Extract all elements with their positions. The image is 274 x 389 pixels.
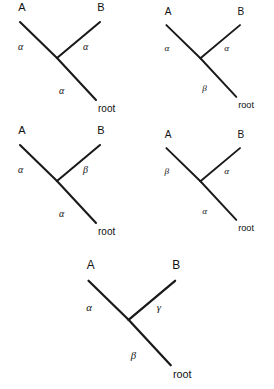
tree-panel-top-left: A B root α α α bbox=[0, 0, 137, 122]
branch-label-root: β bbox=[201, 83, 207, 93]
branch-line-b bbox=[57, 145, 100, 181]
branch-label-b: β bbox=[82, 164, 88, 175]
tip-label-b: B bbox=[238, 6, 245, 17]
branch-label-b: α bbox=[224, 166, 229, 176]
branch-label-b: α bbox=[224, 43, 229, 53]
branch-line-b bbox=[200, 148, 240, 181]
tip-label-b: B bbox=[172, 258, 180, 272]
root-label: root bbox=[98, 226, 115, 237]
root-label: root bbox=[238, 100, 254, 110]
branch-line-b bbox=[57, 22, 100, 58]
branch-line-a bbox=[166, 25, 200, 58]
tip-label-b: B bbox=[238, 129, 245, 140]
tip-label-a: A bbox=[87, 258, 95, 272]
branch-label-root: α bbox=[59, 85, 65, 96]
branch-label-b: γ bbox=[157, 301, 162, 313]
tree-panel-bottom-center: A B root α γ β bbox=[66, 257, 216, 389]
phylogenetic-tree-figure: A B root α α α A B root α α β A B bbox=[0, 0, 274, 389]
tip-label-a: A bbox=[165, 6, 172, 17]
root-label: root bbox=[173, 368, 192, 380]
branch-label-b: α bbox=[83, 41, 89, 52]
root-label: root bbox=[238, 223, 254, 233]
tree-panel-middle-left: A B root α β α bbox=[0, 123, 137, 245]
branch-line-a bbox=[89, 281, 129, 320]
branch-label-root: α bbox=[59, 208, 65, 219]
branch-line-a bbox=[20, 22, 57, 58]
branch-label-a: α bbox=[86, 301, 92, 313]
branch-label-a: β bbox=[164, 166, 170, 176]
tip-label-a: A bbox=[18, 124, 26, 136]
tip-label-a: A bbox=[18, 1, 26, 13]
branch-line-b bbox=[129, 281, 176, 320]
tip-label-a: A bbox=[165, 129, 172, 140]
branch-label-root: β bbox=[130, 349, 137, 361]
root-label: root bbox=[98, 103, 115, 114]
branch-line-b bbox=[200, 25, 240, 58]
branch-label-a: α bbox=[165, 43, 170, 53]
branch-label-root: α bbox=[202, 206, 207, 216]
tip-label-b: B bbox=[97, 124, 104, 136]
tree-panel-middle-right: A B root β α α bbox=[148, 123, 274, 245]
tree-panel-top-right: A B root α α β bbox=[148, 0, 274, 122]
branch-label-a: α bbox=[18, 164, 24, 175]
branch-label-a: α bbox=[18, 41, 24, 52]
branch-line-a bbox=[166, 148, 200, 181]
branch-line-a bbox=[20, 145, 57, 181]
tip-label-b: B bbox=[97, 1, 104, 13]
